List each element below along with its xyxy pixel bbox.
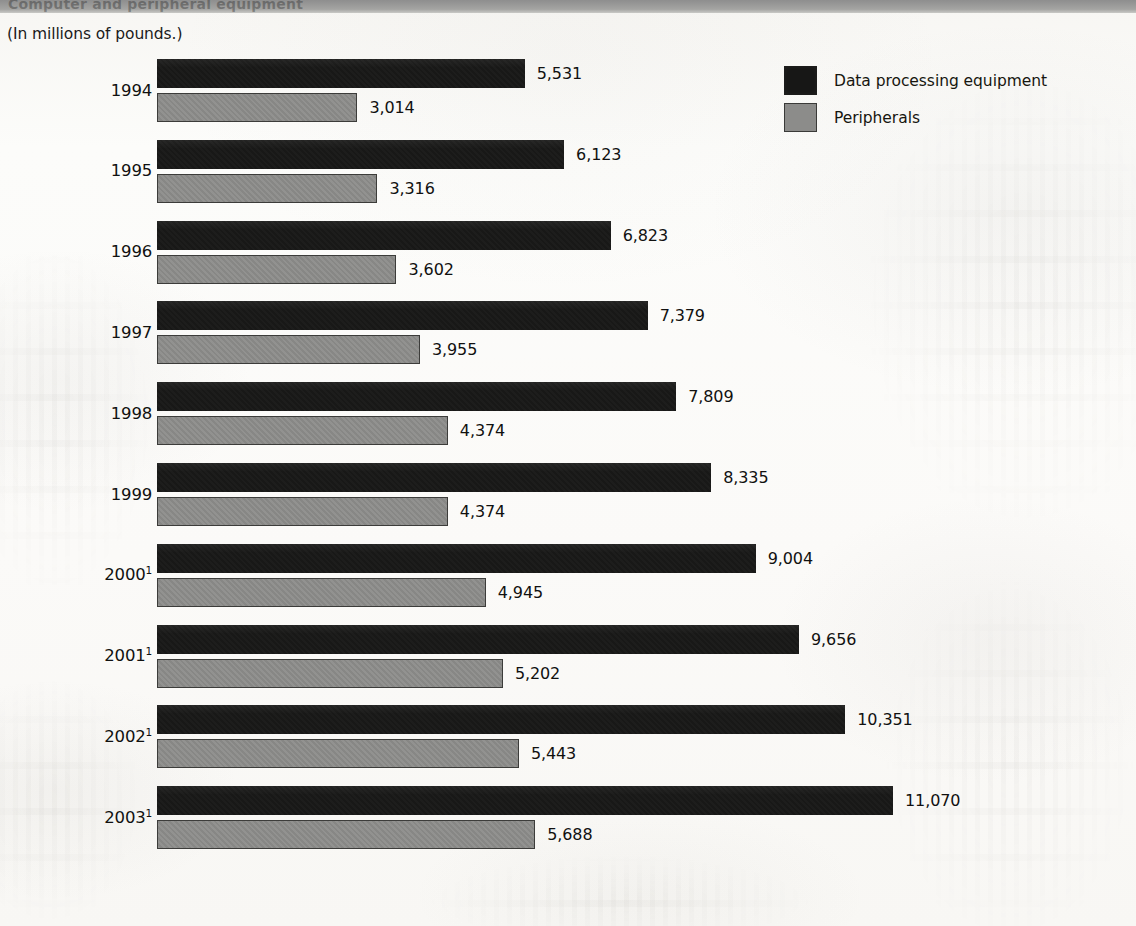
- bar-peripherals: [157, 739, 519, 768]
- bar-row-peripherals: 5,688: [157, 820, 593, 849]
- bar-value-label: 9,004: [768, 549, 813, 568]
- bar-value-label: 7,809: [688, 387, 733, 406]
- bar-data-processing-equipment: [157, 625, 799, 654]
- bar-row-data-processing-equipment: 7,809: [157, 382, 734, 411]
- bar-value-label: 3,955: [432, 340, 477, 359]
- bar-row-data-processing-equipment: 9,656: [157, 625, 856, 654]
- bar-value-label: 6,123: [576, 145, 621, 164]
- bar-value-label: 4,374: [460, 421, 505, 440]
- bar-value-label: 5,443: [531, 744, 576, 763]
- bar-value-label: 10,351: [857, 710, 912, 729]
- bar-data-processing-equipment: [157, 301, 648, 330]
- year-axis-label: 20021: [0, 727, 152, 746]
- bar-data-processing-equipment: [157, 544, 756, 573]
- bar-value-label: 5,688: [547, 825, 592, 844]
- bar-group: 19987,8094,374: [0, 382, 1136, 445]
- bar-row-peripherals: 3,955: [157, 335, 477, 364]
- bar-value-label: 4,374: [460, 502, 505, 521]
- bar-row-peripherals: 3,014: [157, 93, 415, 122]
- bar-peripherals: [157, 820, 535, 849]
- bar-value-label: 7,379: [660, 306, 705, 325]
- bar-data-processing-equipment: [157, 59, 525, 88]
- year-axis-label: 20031: [0, 808, 152, 827]
- bar-value-label: 9,656: [811, 630, 856, 649]
- bar-value-label: 6,823: [623, 226, 668, 245]
- bar-peripherals: [157, 578, 486, 607]
- bar-group: 19945,5313,014: [0, 59, 1136, 122]
- bar-row-peripherals: 4,374: [157, 497, 505, 526]
- bar-value-label: 4,945: [498, 583, 543, 602]
- year-axis-label: 20011: [0, 646, 152, 665]
- bar-row-data-processing-equipment: 6,823: [157, 221, 668, 250]
- bar-group: 200019,0044,945: [0, 544, 1136, 607]
- bar-group: 19956,1233,316: [0, 140, 1136, 203]
- bar-group: 19998,3354,374: [0, 463, 1136, 526]
- bar-value-label: 11,070: [905, 791, 960, 810]
- bar-row-data-processing-equipment: 9,004: [157, 544, 813, 573]
- bar-value-label: 3,316: [389, 179, 434, 198]
- bar-row-data-processing-equipment: 6,123: [157, 140, 621, 169]
- bar-row-data-processing-equipment: 7,379: [157, 301, 705, 330]
- bar-row-peripherals: 4,945: [157, 578, 543, 607]
- bar-data-processing-equipment: [157, 786, 893, 815]
- bar-row-data-processing-equipment: 5,531: [157, 59, 582, 88]
- bar-peripherals: [157, 255, 396, 284]
- footnote-marker: 1: [146, 645, 152, 657]
- year-axis-label: 1997: [0, 323, 152, 342]
- bar-row-data-processing-equipment: 10,351: [157, 705, 913, 734]
- bar-peripherals: [157, 174, 377, 203]
- bar-group: 200119,6565,202: [0, 625, 1136, 688]
- bar-row-peripherals: 5,202: [157, 659, 560, 688]
- year-axis-label: 1994: [0, 81, 152, 100]
- year-axis-label: 1999: [0, 485, 152, 504]
- bar-group: 2003111,0705,688: [0, 786, 1136, 849]
- footnote-marker: 1: [146, 806, 152, 818]
- bar-row-peripherals: 3,316: [157, 174, 435, 203]
- bar-data-processing-equipment: [157, 221, 611, 250]
- bar-chart-plot: 19945,5313,01419956,1233,31619966,8233,6…: [0, 0, 1136, 926]
- bar-row-peripherals: 5,443: [157, 739, 576, 768]
- bar-peripherals: [157, 335, 420, 364]
- bar-group: 2002110,3515,443: [0, 705, 1136, 768]
- bar-data-processing-equipment: [157, 463, 711, 492]
- bar-peripherals: [157, 659, 503, 688]
- bar-group: 19977,3793,955: [0, 301, 1136, 364]
- bar-value-label: 5,531: [537, 64, 582, 83]
- bar-data-processing-equipment: [157, 382, 676, 411]
- bar-row-peripherals: 4,374: [157, 416, 505, 445]
- bar-value-label: 3,014: [369, 98, 414, 117]
- bar-data-processing-equipment: [157, 705, 845, 734]
- bar-data-processing-equipment: [157, 140, 564, 169]
- footnote-marker: 1: [146, 725, 152, 737]
- bar-row-data-processing-equipment: 11,070: [157, 786, 960, 815]
- bar-peripherals: [157, 93, 357, 122]
- bar-peripherals: [157, 497, 448, 526]
- bar-value-label: 5,202: [515, 664, 560, 683]
- year-axis-label: 1995: [0, 161, 152, 180]
- year-axis-label: 1998: [0, 404, 152, 423]
- bar-row-data-processing-equipment: 8,335: [157, 463, 769, 492]
- bar-value-label: 3,602: [408, 260, 453, 279]
- bar-row-peripherals: 3,602: [157, 255, 454, 284]
- year-axis-label: 1996: [0, 242, 152, 261]
- bar-value-label: 8,335: [723, 468, 768, 487]
- bar-peripherals: [157, 416, 448, 445]
- bar-group: 19966,8233,602: [0, 221, 1136, 284]
- year-axis-label: 20001: [0, 565, 152, 584]
- footnote-marker: 1: [146, 564, 152, 576]
